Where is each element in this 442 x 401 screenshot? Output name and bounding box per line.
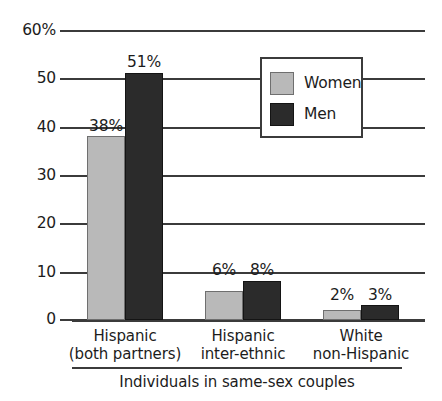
bar-label-men-hispanic-both-partners: 51%: [114, 54, 174, 70]
bar-men-white-non-hispanic: [361, 305, 399, 320]
ytick-label-20: 20: [37, 215, 56, 231]
ytick-stub-50: [60, 78, 72, 80]
axis-caption: Individuals in same-sex couples: [72, 372, 402, 392]
axis-group-rule: [72, 367, 402, 369]
category-label-line1: Hispanic: [93, 327, 156, 345]
ytick-stub-40: [60, 127, 72, 129]
bar-men-hispanic-both-partners: [125, 73, 163, 320]
women-swatch-icon: [270, 72, 294, 95]
men-swatch-icon: [270, 103, 294, 126]
gridline-60: [72, 30, 425, 32]
ytick-label-30: 30: [37, 167, 56, 183]
ytick-stub-30: [60, 175, 72, 177]
bar-chart: 60% 50 40 30 20 10 0 38% 51% 6% 8% 2% 3%…: [0, 0, 442, 401]
category-label-white-non-hispanic: White non-Hispanic: [291, 327, 431, 363]
bar-men-hispanic-inter-ethnic: [243, 281, 281, 320]
ytick-stub-10: [60, 272, 72, 274]
ytick-stub-20: [60, 223, 72, 225]
legend-item-men: Men: [270, 99, 361, 130]
ytick-stub-60: [60, 30, 72, 32]
bar-label-men-white-non-hispanic: 3%: [350, 287, 410, 303]
category-label-line1: Hispanic: [211, 327, 274, 345]
chart-legend: Women Men: [260, 57, 363, 138]
bar-women-white-non-hispanic: [323, 310, 361, 320]
legend-item-women: Women: [270, 68, 361, 99]
ytick-label-60: 60%: [22, 22, 56, 38]
bar-women-hispanic-both-partners: [87, 136, 125, 320]
ytick-label-0: 0: [46, 311, 56, 327]
legend-label-women: Women: [304, 75, 361, 92]
category-label-line1: White: [339, 327, 382, 345]
ytick-stub-0: [60, 319, 72, 321]
bar-label-women-hispanic-both-partners: 38%: [76, 118, 136, 134]
ytick-label-40: 40: [37, 119, 56, 135]
ytick-label-50: 50: [37, 70, 56, 86]
category-label-line2: non-Hispanic: [291, 345, 431, 363]
legend-label-men: Men: [304, 106, 336, 123]
ytick-label-10: 10: [37, 264, 56, 280]
bar-women-hispanic-inter-ethnic: [205, 291, 243, 320]
bar-label-men-hispanic-inter-ethnic: 8%: [232, 262, 292, 278]
